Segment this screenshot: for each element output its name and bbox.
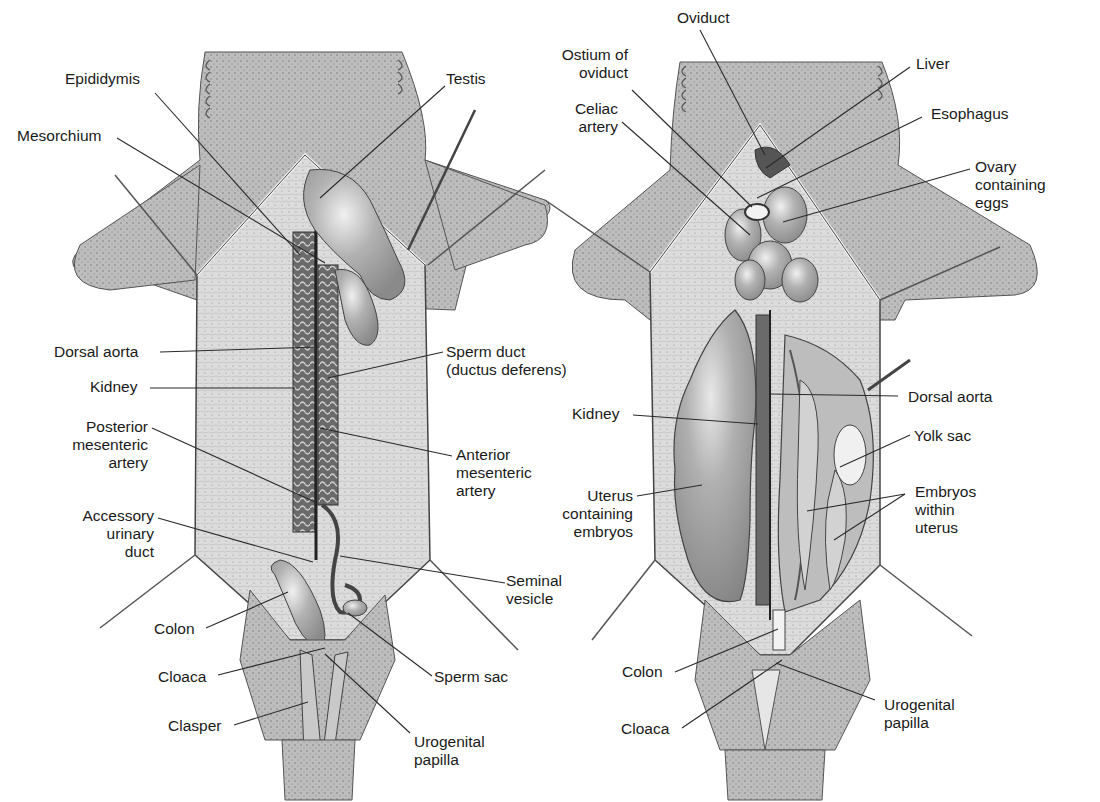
label-female-kidney: Kidney	[572, 405, 619, 423]
label-male-urogenital: Urogenital papilla	[414, 733, 485, 769]
label-female-colon: Colon	[622, 663, 663, 681]
label-female-yolk-sac: Yolk sac	[914, 427, 971, 445]
shark-dissection-figure: EpididymisTestisMesorchiumDorsal aortaSp…	[0, 0, 1100, 802]
label-female-urogenital: Urogenital papilla	[884, 696, 955, 732]
label-female-embryos: Embryos within uterus	[915, 483, 976, 537]
label-female-cloaca: Cloaca	[621, 720, 669, 738]
label-male-testis: Testis	[446, 70, 486, 88]
label-male-clasper: Clasper	[168, 717, 221, 735]
label-male-mesorchium: Mesorchium	[17, 127, 101, 145]
label-male-dorsal-aorta: Dorsal aorta	[54, 343, 138, 361]
label-male-cloaca: Cloaca	[158, 668, 206, 686]
label-female-esophagus: Esophagus	[931, 105, 1009, 123]
label-female-oviduct: Oviduct	[677, 9, 730, 27]
label-male-accessory: Accessory urinary duct	[83, 507, 155, 561]
label-female-uterus: Uterus containing embryos	[562, 487, 633, 541]
label-male-seminal: Seminal vesicle	[506, 572, 562, 608]
label-female-liver: Liver	[916, 55, 950, 73]
label-female-ovary: Ovary containing eggs	[975, 158, 1046, 212]
label-female-celiac: Celiac artery	[575, 100, 618, 136]
label-male-sperm-duct: Sperm duct (ductus deferens)	[446, 343, 567, 379]
label-male-sperm-sac: Sperm sac	[434, 668, 508, 686]
label-male-anterior: Anterior mesenteric artery	[456, 446, 532, 500]
label-male-colon: Colon	[154, 620, 195, 638]
label-male-posterior: Posterior mesenteric artery	[72, 418, 148, 472]
label-male-epididymis: Epididymis	[65, 70, 140, 88]
label-male-kidney: Kidney	[90, 378, 137, 396]
label-female-dorsal-aorta: Dorsal aorta	[908, 388, 992, 406]
label-female-ostium-of: Ostium of oviduct	[562, 46, 628, 82]
